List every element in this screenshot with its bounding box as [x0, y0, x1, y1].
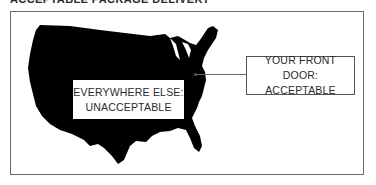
- everywhere-else-line2: UNACCEPTABLE: [73, 100, 184, 115]
- leader-line: [196, 74, 246, 75]
- front-door-label: YOUR FRONT DOOR: ACCEPTABLE: [246, 56, 355, 95]
- everywhere-else-line1: EVERYWHERE ELSE:: [73, 85, 184, 100]
- everywhere-else-label: EVERYWHERE ELSE: UNACCEPTABLE: [73, 80, 184, 119]
- front-door-line1: YOUR FRONT DOOR:: [247, 53, 354, 83]
- front-door-line2: ACCEPTABLE: [247, 83, 354, 98]
